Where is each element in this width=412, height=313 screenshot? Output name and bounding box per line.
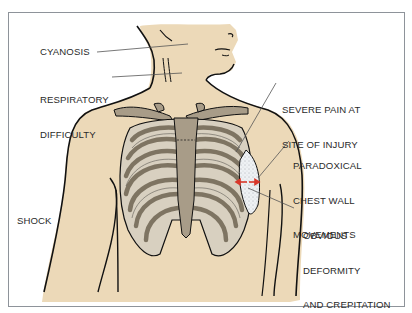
rib-cage [120,118,252,256]
label-obvious-deformity: OBVIOUS DEFORMITY AND CREPITATION OVER F… [303,207,393,313]
label-shock: SHOCK [17,215,52,227]
label-respiratory-difficulty: RESPIRATORY DIFFICULTY [40,71,109,152]
label-cyanosis: CYANOSIS [40,46,90,58]
